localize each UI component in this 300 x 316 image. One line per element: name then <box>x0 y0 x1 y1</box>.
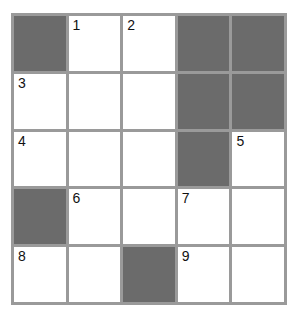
crossword-cell[interactable]: 5 <box>232 132 284 187</box>
crossword-cell[interactable]: 8 <box>14 247 66 302</box>
black-square <box>14 16 66 71</box>
crossword-cell[interactable]: 3 <box>14 74 66 129</box>
crossword-cell[interactable] <box>69 247 121 302</box>
black-square <box>14 189 66 244</box>
clue-number: 8 <box>18 249 26 263</box>
clue-number: 9 <box>182 249 190 263</box>
clue-number: 1 <box>73 18 81 32</box>
crossword-cell[interactable]: 6 <box>69 189 121 244</box>
black-square <box>178 132 230 187</box>
crossword-cell[interactable] <box>123 132 175 187</box>
crossword-cell[interactable] <box>232 189 284 244</box>
black-square <box>178 16 230 71</box>
crossword-cell[interactable] <box>232 247 284 302</box>
clue-number: 7 <box>182 191 190 205</box>
clue-number: 6 <box>73 191 81 205</box>
clue-number: 3 <box>18 76 26 90</box>
crossword-cell[interactable]: 4 <box>14 132 66 187</box>
clue-number: 4 <box>18 134 26 148</box>
crossword-cell[interactable]: 2 <box>123 16 175 71</box>
crossword-grid: 123456789 <box>11 13 287 305</box>
clue-number: 5 <box>236 134 244 148</box>
crossword-cell[interactable]: 7 <box>178 189 230 244</box>
black-square <box>232 74 284 129</box>
crossword-cell[interactable] <box>123 74 175 129</box>
crossword-cell[interactable] <box>123 189 175 244</box>
crossword-cell[interactable] <box>69 132 121 187</box>
clue-number: 2 <box>127 18 135 32</box>
crossword-cell[interactable]: 1 <box>69 16 121 71</box>
black-square <box>232 16 284 71</box>
crossword-cell[interactable] <box>69 74 121 129</box>
crossword-cell[interactable]: 9 <box>178 247 230 302</box>
black-square <box>123 247 175 302</box>
black-square <box>178 74 230 129</box>
